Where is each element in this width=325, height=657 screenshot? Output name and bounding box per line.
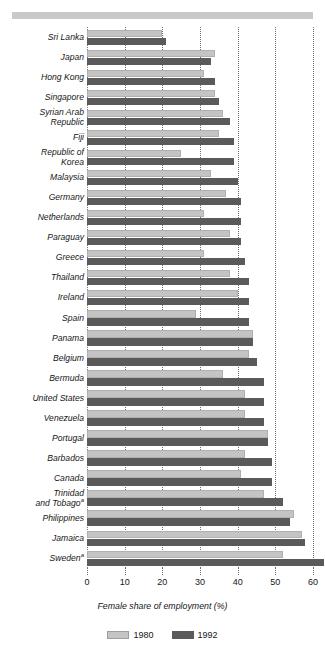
bar-1992 [87,98,219,105]
category-label-line: Spain [62,314,84,324]
axis-tick [125,568,126,575]
category-label: Singapore [0,87,84,109]
bar-1992 [87,38,166,45]
category-label: Germany [0,187,84,209]
bar-1992 [87,218,241,225]
bar-1992 [87,458,272,465]
bar-group [87,247,325,269]
category-label: Republic ofKorea [0,147,84,169]
axis-tick [200,568,201,575]
category-label: Panama [0,328,84,350]
bar-1992 [87,238,241,245]
category-label: Greece [0,247,84,269]
category-label-line: Bermuda [49,374,84,384]
bar-group [87,368,325,390]
category-label: Barbados [0,448,84,470]
chart-row: Portugal [0,428,325,450]
bar-1980 [87,531,302,538]
bar-1980 [87,370,223,377]
category-label-line: Thailand [51,273,84,283]
bar-1980 [87,490,264,497]
category-label: Bermuda [0,368,84,390]
bar-1980 [87,350,249,357]
bar-1992 [87,398,264,405]
chart-row: Panama [0,328,325,350]
bar-1992 [87,318,249,325]
category-label-line: Sri Lanka [48,33,84,43]
bar-1992 [87,298,249,305]
category-label: Syrian ArabRepublic [0,107,84,129]
bar-1992 [87,118,230,125]
bar-1992 [87,138,234,145]
legend-item: 1980 [107,630,153,640]
legend-swatch [107,631,129,639]
category-label: Philippines [0,508,84,530]
bar-group [87,267,325,289]
category-label-line: Japan [61,53,84,63]
bar-group [87,107,325,129]
bar-1980 [87,30,162,37]
bar-1980 [87,390,245,397]
category-label-line: United States [32,394,84,404]
bar-group [87,287,325,309]
bar-1980 [87,110,223,117]
bar-group [87,67,325,89]
bar-1992 [87,418,264,425]
bar-group [87,528,325,550]
category-label: Belgium [0,348,84,370]
bar-1992 [87,78,215,85]
bar-group [87,448,325,470]
bar-group [87,207,325,229]
bar-1992 [87,338,253,345]
category-label: Ireland [0,287,84,309]
chart-row: Trinidadand Tobagoa [0,488,325,510]
legend-label: 1980 [133,630,153,640]
bar-group [87,468,325,490]
bar-1980 [87,410,245,417]
axis-tick-label: 40 [223,577,253,587]
bar-group [87,47,325,69]
chart-figure: Sri LankaJapanHong KongSingaporeSyrian A… [0,0,325,657]
footnote-marker: a [81,552,84,558]
bar-1980 [87,470,241,477]
bar-group [87,328,325,350]
category-label-line: Korea [61,158,84,168]
chart-row: Hong Kong [0,67,325,89]
category-label: United States [0,388,84,410]
bar-1980 [87,90,215,97]
category-label: Trinidadand Tobagoa [0,488,84,510]
chart-row: Philippines [0,508,325,530]
bar-1992 [87,518,290,525]
bar-1980 [87,50,215,57]
axis-tick-label: 60 [298,577,325,587]
category-label-line: Jamaica [52,534,84,544]
category-label-line: Barbados [47,454,84,464]
bar-1980 [87,210,204,217]
bar-1992 [87,438,268,445]
category-label: Sri Lanka [0,27,84,49]
bar-group [87,187,325,209]
bar-1992 [87,278,249,285]
category-label: Canada [0,468,84,490]
category-label-line: Panama [52,334,84,344]
chart-row: Thailand [0,267,325,289]
category-label: Japan [0,47,84,69]
category-label-line: and Tobagoa [36,499,84,509]
bar-1980 [87,150,181,157]
bar-1980 [87,270,230,277]
category-label-line: Ireland [58,293,84,303]
axis-tick-label: 10 [110,577,140,587]
category-label-line: Venezuela [44,414,84,424]
category-label: Paraguay [0,227,84,249]
bar-1980 [87,330,253,337]
category-label-line: Germany [49,193,84,203]
legend-item: 1992 [172,630,218,640]
bar-1980 [87,310,196,317]
category-label: Thailand [0,267,84,289]
axis-tick [162,568,163,575]
bar-group [87,548,325,570]
category-label: Hong Kong [0,67,84,89]
category-label-line: Singapore [45,93,84,103]
category-label: Portugal [0,428,84,450]
category-label-line: Hong Kong [41,73,84,83]
